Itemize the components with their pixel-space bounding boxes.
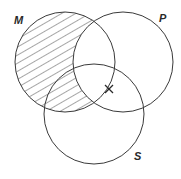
set-label-s: S (134, 150, 142, 162)
set-label-p: P (159, 12, 167, 24)
set-label-m: M (14, 14, 24, 26)
venn-diagram: M P S (0, 0, 181, 179)
shaded-region-m-not-p (0, 0, 181, 179)
